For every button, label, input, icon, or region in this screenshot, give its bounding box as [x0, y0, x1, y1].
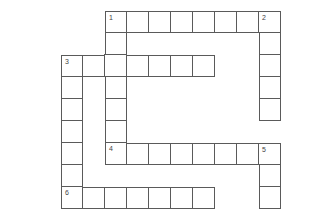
crossword-cell[interactable] — [192, 187, 215, 209]
crossword-cell[interactable] — [105, 76, 127, 99]
crossword-cell[interactable] — [61, 98, 83, 121]
crossword-cell[interactable] — [104, 187, 127, 209]
crossword-cell[interactable] — [170, 143, 193, 165]
clue-number: 1 — [109, 14, 113, 21]
crossword-grid: 124365 — [0, 0, 332, 224]
crossword-cell[interactable] — [148, 11, 171, 33]
clue-number: 5 — [262, 146, 266, 153]
crossword-cell[interactable]: 5 — [258, 143, 281, 165]
crossword-cell[interactable] — [126, 143, 149, 165]
crossword-cell[interactable] — [61, 76, 83, 99]
crossword-cell[interactable] — [105, 120, 127, 143]
crossword-cell[interactable]: 6 — [61, 186, 83, 209]
crossword-cell[interactable] — [192, 11, 215, 33]
crossword-cell[interactable] — [259, 76, 281, 99]
crossword-cell[interactable] — [82, 187, 105, 209]
crossword-cell[interactable] — [104, 54, 127, 77]
crossword-cell[interactable] — [148, 55, 171, 77]
crossword-cell[interactable] — [61, 164, 83, 187]
crossword-cell[interactable]: 1 — [105, 11, 127, 33]
clue-number: 3 — [65, 58, 69, 65]
crossword-cell[interactable]: 4 — [105, 142, 127, 165]
crossword-cell[interactable] — [170, 55, 193, 77]
crossword-cell[interactable] — [259, 32, 281, 55]
crossword-cell[interactable] — [126, 11, 149, 33]
crossword-cell[interactable] — [259, 98, 281, 121]
crossword-cell[interactable] — [192, 55, 215, 77]
crossword-cell[interactable] — [214, 143, 237, 165]
crossword-cell[interactable] — [214, 11, 237, 33]
crossword-cell[interactable] — [148, 143, 171, 165]
crossword-cell[interactable] — [236, 11, 259, 33]
crossword-cell[interactable] — [259, 54, 281, 77]
crossword-cell[interactable]: 3 — [61, 55, 83, 77]
crossword-cell[interactable]: 2 — [258, 11, 281, 33]
crossword-cell[interactable] — [236, 143, 259, 165]
crossword-cell[interactable] — [61, 120, 83, 143]
crossword-cell[interactable] — [126, 55, 149, 77]
crossword-cell[interactable] — [192, 143, 215, 165]
crossword-cell[interactable] — [105, 98, 127, 121]
crossword-cell[interactable] — [105, 32, 127, 55]
crossword-cell[interactable] — [148, 187, 171, 209]
crossword-cell[interactable] — [259, 186, 281, 209]
clue-number: 6 — [65, 189, 69, 196]
clue-number: 4 — [109, 145, 113, 152]
crossword-cell[interactable] — [259, 164, 281, 187]
clue-number: 2 — [262, 14, 266, 21]
crossword-cell[interactable] — [82, 55, 105, 77]
crossword-cell[interactable] — [61, 142, 83, 165]
crossword-cell[interactable] — [126, 187, 149, 209]
crossword-cell[interactable] — [170, 11, 193, 33]
crossword-cell[interactable] — [170, 187, 193, 209]
